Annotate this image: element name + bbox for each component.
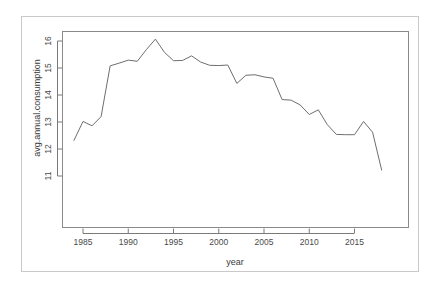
y-tick-label: 13 bbox=[43, 117, 53, 127]
x-axis-title: year bbox=[226, 257, 244, 267]
x-tick-label: 2005 bbox=[255, 237, 274, 247]
x-tick-label: 2000 bbox=[209, 237, 228, 247]
x-tick-label: 2015 bbox=[345, 237, 364, 247]
y-axis: 111213141516 bbox=[43, 36, 62, 180]
x-axis: 1985199019952000200520102015 bbox=[74, 229, 365, 248]
plot-panel-border bbox=[63, 32, 409, 228]
x-tickmarks bbox=[83, 229, 355, 234]
line-chart: 111213141516 198519901995200020052010201… bbox=[0, 0, 439, 291]
x-tick-labels: 1985199019952000200520102015 bbox=[74, 237, 365, 247]
plot-area: 111213141516 198519901995200020052010201… bbox=[0, 0, 439, 291]
x-tick-label: 2010 bbox=[300, 237, 319, 247]
y-tick-label: 16 bbox=[43, 36, 53, 46]
y-tick-label: 12 bbox=[43, 144, 53, 154]
x-tick-label: 1985 bbox=[74, 237, 93, 247]
chart-screenshot: 111213141516 198519901995200020052010201… bbox=[0, 0, 439, 291]
x-tick-label: 1995 bbox=[164, 237, 183, 247]
y-tick-label: 15 bbox=[43, 63, 53, 73]
y-tick-label: 14 bbox=[43, 90, 53, 100]
y-tick-labels: 111213141516 bbox=[43, 36, 53, 180]
y-tick-label: 11 bbox=[43, 171, 53, 180]
y-tickmarks bbox=[58, 41, 63, 176]
y-axis-title: avg.annual.consumption bbox=[32, 59, 42, 157]
data-series-line bbox=[74, 39, 382, 170]
x-tick-label: 1990 bbox=[119, 237, 138, 247]
